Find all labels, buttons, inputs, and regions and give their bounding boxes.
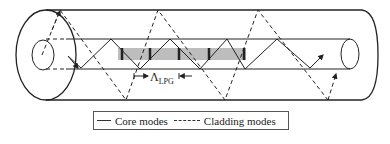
cladding-mode-legend-line	[174, 120, 200, 121]
core-dashed-edges	[46, 39, 66, 69]
core-mode-legend-label: Core modes	[115, 115, 168, 127]
period-label: ΛLPG	[150, 70, 174, 86]
grating-region	[118, 48, 246, 60]
core-mode-arrow-right	[310, 55, 323, 68]
cladding-mode-arrow-left	[52, 11, 60, 30]
core-mode-legend-line	[97, 120, 111, 121]
legend: Core modes Cladding modes	[93, 111, 289, 130]
cladding-mode-arrow-right	[328, 74, 336, 100]
cladding-mode-legend-label: Cladding modes	[204, 115, 276, 127]
